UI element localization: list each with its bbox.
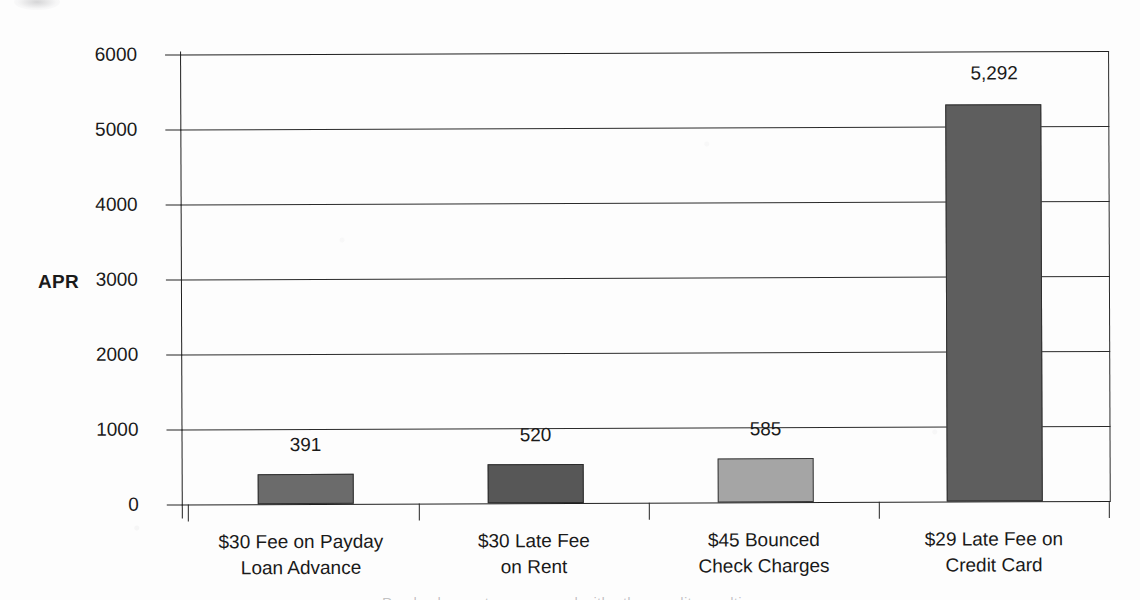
y-axis-line [180,51,183,518]
y-tick-mark-3000 [166,279,182,280]
x-tick-mark-1 [419,504,420,521]
y-tick-mark-6000 [165,54,181,55]
y-tick-mark-5000 [165,129,181,130]
y-tick-label-0: 0 [11,494,139,516]
bar-late-fee-credit-card [945,104,1043,501]
bar-value-label-bounced-check-charges: 585 [750,418,782,440]
y-tick-label-5000: 5000 [9,119,137,141]
y-tick-label-4000: 4000 [10,194,138,216]
cropped-caption-text: Payday loan rates compared with other cr… [382,594,758,600]
y-tick-mark-0 [167,504,183,505]
y-tick-mark-1000 [166,429,182,430]
bar-late-fee-rent [488,464,584,503]
y-tick-label-2000: 2000 [10,344,138,366]
x-tick-mark-2 [649,503,650,520]
x-category-label-late-fee-rent: $30 Late Fee on Rent [409,528,659,581]
bar-value-label-late-fee-rent: 520 [520,424,552,446]
bar-chart: APR 6000 5000 4000 3000 2000 1000 0 [0,0,1140,600]
x-category-label-late-fee-credit-card: $29 Late Fee on Credit Card [869,526,1119,579]
gridline-6000 [180,51,1109,56]
y-tick-mark-4000 [166,204,182,205]
plot-right-border [1108,51,1111,501]
x-category-label-payday-loan-advance: $30 Fee on Payday Loan Advance [176,529,426,582]
x-tick-mark-0 [188,504,189,521]
x-tick-mark-4 [1109,501,1110,518]
y-tick-label-1000: 1000 [10,419,138,441]
y-tick-mark-2000 [166,354,182,355]
bar-value-label-late-fee-credit-card: 5,292 [970,62,1018,84]
bar-value-label-payday-loan-advance: 391 [290,434,322,456]
bar-payday-loan-advance [258,474,354,504]
y-tick-label-6000: 6000 [9,44,137,66]
x-tick-mark-3 [879,502,880,519]
bar-bounced-check-charges [718,458,814,502]
x-category-label-bounced-check-charges: $45 Bounced Check Charges [639,527,889,580]
y-tick-label-3000: 3000 [10,269,138,291]
chart-page: APR 6000 5000 4000 3000 2000 1000 0 [0,0,1140,600]
